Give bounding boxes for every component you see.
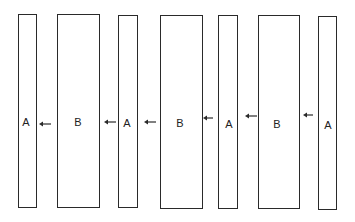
slab-label-a-3: A xyxy=(225,119,232,130)
left-arrow-icon-5 xyxy=(245,112,257,120)
slab-a-3 xyxy=(218,15,238,209)
slab-a-1 xyxy=(18,14,37,208)
slab-label-a-1: A xyxy=(22,117,29,128)
slab-a-2 xyxy=(118,15,138,208)
left-arrow-icon-2 xyxy=(104,118,116,126)
slab-b-1 xyxy=(57,14,100,208)
left-arrow-icon-1 xyxy=(39,120,51,128)
left-arrow-icon-4 xyxy=(203,114,213,122)
slab-label-b-1: B xyxy=(74,117,81,128)
left-arrow-icon-6 xyxy=(303,111,313,119)
slab-a-4 xyxy=(318,16,337,210)
slab-b-2 xyxy=(160,15,203,209)
left-arrow-icon-3 xyxy=(144,118,156,126)
slab-b-3 xyxy=(258,15,300,209)
slab-label-a-4: A xyxy=(324,120,331,131)
slab-label-b-2: B xyxy=(176,118,183,129)
slab-label-b-3: B xyxy=(273,119,280,130)
slab-label-a-2: A xyxy=(123,118,130,129)
